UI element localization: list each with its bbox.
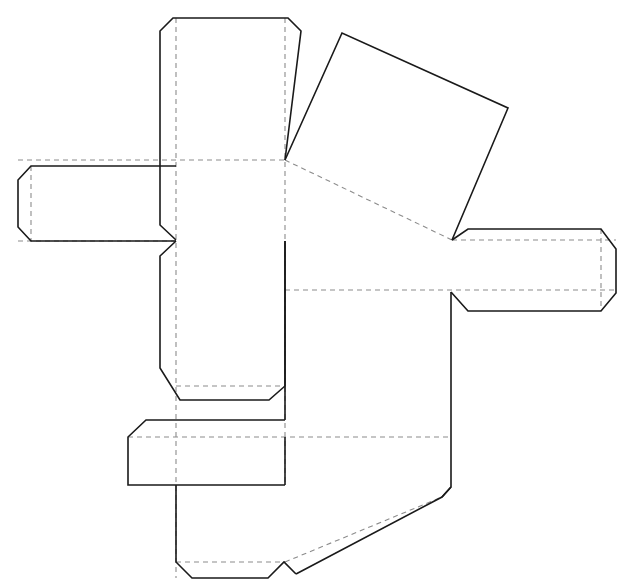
canvas-background bbox=[0, 0, 619, 588]
papercraft-net-figure: Papercraft Net Template Unfolded box net… bbox=[0, 0, 619, 588]
